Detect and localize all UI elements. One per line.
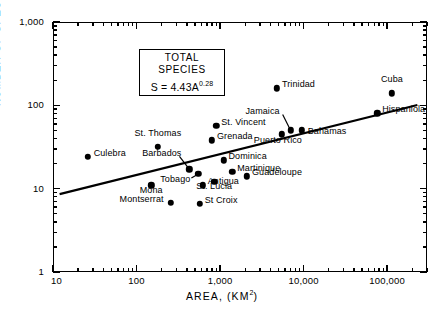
x-tick	[383, 268, 384, 272]
data-point-label: Montserrat	[120, 194, 164, 204]
x-tick	[128, 268, 129, 272]
y-tick-right	[420, 188, 427, 189]
x-tick-top	[201, 22, 202, 26]
x-tick	[123, 268, 124, 272]
x-tick	[201, 268, 202, 272]
y-tick	[53, 123, 57, 124]
y-tick-label: 100	[0, 99, 44, 110]
figure-scatter-species-area: NUMBER OF SPECIES AREA, (KM2) TOTAL SPEC…	[0, 0, 444, 318]
y-tick-right	[423, 80, 427, 81]
x-tick	[211, 268, 212, 272]
x-tick-top	[386, 22, 387, 29]
x-tick	[111, 268, 112, 272]
x-tick	[117, 268, 118, 272]
x-tick-top	[378, 22, 379, 26]
y-tick-right	[420, 21, 427, 22]
x-tick-top	[343, 22, 344, 26]
x-tick	[343, 268, 344, 272]
x-tick	[161, 268, 162, 272]
x-tick-top	[194, 22, 195, 26]
y-tick-right	[423, 206, 427, 207]
x-tick-top	[211, 22, 212, 26]
data-point-label: Guadeloupe	[252, 167, 302, 177]
data-point-label: Puerto Rico	[254, 135, 302, 145]
data-point-label: Hispaniola	[382, 104, 425, 114]
x-tick	[290, 268, 291, 272]
annotation-equation: S = 4.43A0.28	[151, 80, 214, 93]
x-tick	[136, 265, 137, 272]
x-tick	[132, 268, 133, 272]
y-tick-label: 1,000	[0, 16, 44, 27]
y-tick	[53, 105, 60, 106]
x-tick-top	[111, 22, 112, 26]
y-tick-right	[423, 54, 427, 55]
data-point-label: St. Lucia	[196, 181, 232, 191]
x-tick-top	[295, 22, 296, 26]
x-tick-top	[186, 22, 187, 26]
y-tick	[53, 138, 57, 139]
x-tick	[299, 268, 300, 272]
annotation-line-1: TOTAL	[165, 52, 199, 64]
y-tick-label: 10	[0, 183, 44, 194]
x-tick-top	[176, 22, 177, 26]
y-tick	[53, 246, 57, 247]
y-tick	[53, 130, 57, 131]
x-tick-top	[259, 22, 260, 26]
x-tick	[278, 268, 279, 272]
data-point-label: St Croix	[205, 195, 238, 205]
x-axis-title: AREA, (KM2)	[0, 289, 444, 302]
y-tick-right	[423, 29, 427, 30]
y-tick	[53, 206, 57, 207]
x-tick-top	[216, 22, 217, 26]
x-tick-top	[412, 22, 413, 26]
x-tick-label: 100,000	[369, 275, 405, 286]
x-tick	[77, 268, 78, 272]
y-tick	[53, 196, 57, 197]
y-tick	[53, 192, 57, 193]
x-tick-top	[299, 22, 300, 26]
data-point-label: Tobago	[160, 174, 190, 184]
y-tick-label: 1	[0, 266, 44, 277]
y-tick-right	[423, 246, 427, 247]
data-point-label: St. Vincent	[221, 117, 265, 127]
y-tick	[53, 148, 57, 149]
y-tick-right	[420, 271, 427, 272]
x-tick	[176, 268, 177, 272]
y-tick-right	[423, 201, 427, 202]
y-tick-right	[423, 130, 427, 131]
x-tick	[270, 268, 271, 272]
y-tick	[53, 188, 60, 189]
y-tick-right	[423, 148, 427, 149]
x-tick	[284, 268, 285, 272]
x-tick-top	[245, 22, 246, 26]
x-tick-top	[284, 22, 285, 26]
y-tick	[53, 34, 57, 35]
x-tick	[206, 268, 207, 272]
data-point-label: Barbados	[142, 148, 181, 158]
x-tick-top	[290, 22, 291, 26]
x-tick-top	[353, 22, 354, 26]
y-tick	[53, 213, 57, 214]
x-tick	[386, 265, 387, 272]
y-tick	[53, 54, 57, 55]
y-tick-right	[423, 65, 427, 66]
x-tick-top	[77, 22, 78, 26]
x-tick-top	[117, 22, 118, 26]
data-point-label: Cuba	[381, 74, 403, 84]
x-tick	[412, 268, 413, 272]
y-tick	[53, 46, 57, 47]
x-tick-top	[128, 22, 129, 26]
data-point-label: Bahamas	[308, 126, 347, 136]
y-tick-right	[423, 46, 427, 47]
x-tick	[92, 268, 93, 272]
y-tick	[53, 65, 57, 66]
y-tick-right	[423, 232, 427, 233]
x-tick	[259, 268, 260, 272]
data-point-label: St. Thomas	[134, 128, 181, 138]
x-tick-top	[123, 22, 124, 26]
y-tick	[53, 29, 57, 30]
x-tick	[374, 268, 375, 272]
x-tick	[245, 268, 246, 272]
y-tick-right	[423, 34, 427, 35]
x-tick-top	[92, 22, 93, 26]
